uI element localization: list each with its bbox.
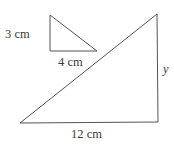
large-vertical-label: y bbox=[161, 62, 169, 76]
small-vertical-label: 3 cm bbox=[5, 27, 30, 41]
large-horizontal-label: 12 cm bbox=[71, 127, 102, 141]
similar-triangles-diagram: 3 cm 4 cm y 12 cm bbox=[0, 0, 174, 144]
small-horizontal-label: 4 cm bbox=[58, 55, 83, 69]
large-triangle bbox=[20, 14, 158, 123]
small-triangle bbox=[50, 15, 97, 51]
